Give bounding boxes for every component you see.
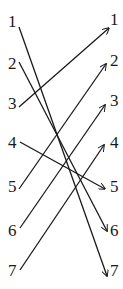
arrow-3-to-1 [19, 28, 109, 107]
right-node-label: 1 [110, 10, 119, 29]
right-node-label: 4 [110, 133, 119, 152]
left-node-label: 4 [8, 133, 17, 152]
right-node-label: 5 [110, 177, 119, 196]
left-node-label: 5 [8, 177, 17, 196]
arrow-edges [19, 27, 109, 276]
right-node-label: 3 [110, 91, 119, 110]
left-node-label: 2 [8, 54, 17, 73]
right-node-label: 6 [110, 221, 119, 240]
left-node-labels: 1234567 [8, 12, 17, 280]
arrow-7-to-4 [20, 145, 104, 270]
mapping-diagram: 1234567 1234567 [0, 0, 123, 289]
right-node-labels: 1234567 [110, 10, 119, 280]
left-node-label: 6 [8, 221, 17, 240]
left-node-label: 7 [8, 261, 17, 280]
right-node-label: 7 [110, 261, 119, 280]
arrow-6-to-3 [20, 105, 105, 228]
left-node-label: 3 [8, 94, 17, 113]
arrow-1-to-7 [19, 27, 107, 276]
left-node-label: 1 [8, 12, 17, 31]
right-node-label: 2 [110, 51, 119, 70]
arrow-5-to-2 [19, 64, 106, 189]
